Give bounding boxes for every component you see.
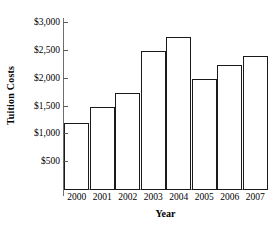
x-axis-tick-label: 2002 bbox=[115, 191, 141, 203]
x-axis-title: Year bbox=[63, 208, 268, 219]
x-axis-tick-label: 2004 bbox=[166, 191, 192, 203]
x-axis-tick-label: 2003 bbox=[141, 191, 167, 203]
x-axis-tick-label: 2005 bbox=[192, 191, 218, 203]
bar bbox=[115, 93, 140, 190]
y-axis-tick-label: $2,000 bbox=[14, 73, 60, 83]
bar-chart: Tuition Costs $500$1,000$1,500$2,000$2,5… bbox=[0, 0, 274, 237]
y-axis-tick-mark bbox=[63, 106, 68, 107]
x-axis-tick-label: 2001 bbox=[90, 191, 116, 203]
x-axis-tick-label: 2007 bbox=[243, 191, 269, 203]
y-axis-tick-labels: $500$1,000$1,500$2,000$2,500$3,000 bbox=[14, 0, 60, 237]
y-axis-tick-label: $1,500 bbox=[14, 101, 60, 111]
y-axis-tick-mark bbox=[63, 161, 68, 162]
bar bbox=[90, 107, 115, 191]
x-axis-tick-label: 2006 bbox=[217, 191, 243, 203]
y-axis-tick-mark bbox=[63, 22, 68, 23]
y-axis-tick-mark bbox=[63, 78, 68, 79]
x-axis-tick-labels: 20002001200220032004200520062007 bbox=[64, 191, 268, 205]
y-axis-tick-mark bbox=[63, 50, 68, 51]
y-axis-tick-label: $500 bbox=[14, 156, 60, 166]
bar bbox=[243, 56, 268, 190]
bar bbox=[192, 79, 217, 190]
bar bbox=[217, 65, 242, 190]
y-axis-tick-mark bbox=[63, 133, 68, 134]
bar bbox=[141, 51, 166, 190]
y-axis-tick-label: $3,000 bbox=[14, 17, 60, 27]
bar-series bbox=[64, 18, 268, 190]
bar bbox=[166, 37, 191, 190]
y-axis-tick-label: $2,500 bbox=[14, 45, 60, 55]
x-axis-tick-label: 2000 bbox=[64, 191, 90, 203]
y-axis-tick-label: $1,000 bbox=[14, 128, 60, 138]
